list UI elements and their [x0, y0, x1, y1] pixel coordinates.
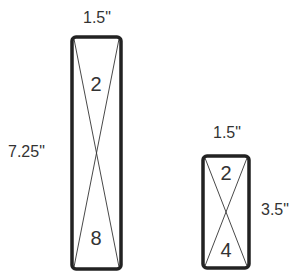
large-bottom-number: 8 — [86, 228, 106, 248]
diagram-canvas — [0, 0, 304, 277]
large-top-number: 2 — [86, 74, 106, 94]
small-top-number: 2 — [216, 163, 236, 183]
small-bottom-number: 4 — [216, 240, 236, 260]
small-width-label: 1.5" — [213, 125, 241, 141]
small-height-label: 3.5" — [261, 202, 289, 218]
large-height-label: 7.25" — [8, 144, 45, 160]
large-width-label: 1.5" — [83, 10, 111, 26]
